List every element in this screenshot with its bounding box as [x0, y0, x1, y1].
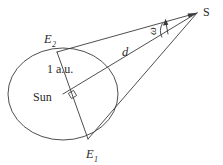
label-earth-position-2: E	[43, 32, 52, 46]
label-sun: Sun	[33, 90, 52, 104]
parallax-angle-arc	[160, 23, 162, 37]
label-earth-position-1-subscript: 1	[94, 155, 98, 164]
diagram-canvas: S E 2 E 1 Sun 1 a.u. d ω	[0, 0, 223, 165]
stellar-parallax-diagram: S E 2 E 1 Sun 1 a.u. d ω	[0, 0, 223, 165]
label-star-distance: d	[122, 45, 129, 59]
star-line-arrowhead	[188, 13, 198, 18]
label-earth-position-1: E	[85, 147, 94, 161]
label-baseline-distance: 1 a.u.	[47, 62, 73, 76]
label-earth-position-2-subscript: 2	[52, 40, 56, 49]
label-parallax-angle: ω	[146, 27, 158, 35]
label-star: S	[203, 5, 210, 19]
distance-line-d	[63, 13, 197, 94]
sight-line-e1-to-star	[88, 13, 197, 139]
